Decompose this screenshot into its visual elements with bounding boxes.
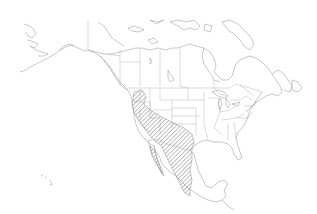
pacific-coast [100,56,154,146]
range-map: Species range map of North America [0,0,317,214]
species-range [132,90,194,196]
arctic-islands [98,20,254,50]
north-america-map [0,0,317,214]
canada [88,44,302,112]
hawaii [41,175,52,185]
